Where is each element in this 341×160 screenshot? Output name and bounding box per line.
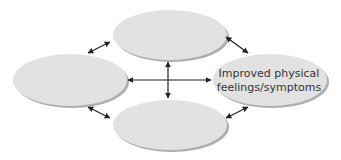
relationship-diagram: Improved physical feelings/symptoms: [0, 0, 341, 160]
node-left: [13, 54, 129, 108]
arrow-top-right: [226, 37, 248, 53]
node-left-ellipse: [13, 54, 127, 106]
arrow-left-bottom: [88, 107, 110, 118]
node-top-ellipse: [113, 10, 227, 60]
node-right-label-line2: feelings/symptoms: [217, 81, 322, 94]
arrow-left-top: [88, 42, 110, 53]
node-right: Improved physical feelings/symptoms: [213, 54, 329, 108]
arrow-bottom-right: [226, 107, 248, 118]
node-top: [113, 10, 229, 62]
node-right-ellipse: [213, 54, 327, 106]
node-right-label-line1: Improved physical: [219, 67, 320, 80]
node-bottom-ellipse: [113, 100, 227, 150]
node-bottom: [113, 100, 229, 152]
